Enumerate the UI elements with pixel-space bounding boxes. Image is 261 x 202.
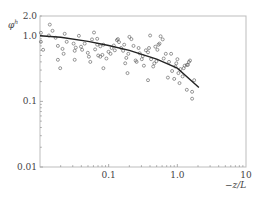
data-point <box>86 51 89 54</box>
data-point <box>62 52 65 55</box>
data-point <box>89 60 92 63</box>
data-point <box>125 56 128 59</box>
y-tick-label: 0.01 <box>17 162 37 172</box>
data-point <box>105 57 108 60</box>
data-point <box>161 38 164 41</box>
data-point <box>191 97 194 100</box>
data-point <box>137 47 140 50</box>
data-point <box>140 58 143 61</box>
data-point <box>96 37 99 40</box>
data-point <box>87 55 90 58</box>
data-point <box>130 38 133 41</box>
y-tick-label: 1.0 <box>23 31 38 41</box>
data-point <box>73 49 76 52</box>
data-point <box>181 75 184 78</box>
data-point <box>154 45 157 48</box>
scatter-points <box>39 23 195 100</box>
data-point <box>126 72 129 75</box>
x-tick-label: 10 <box>240 170 252 180</box>
y-axis-label: φh <box>8 18 18 30</box>
y-axis-tick-labels: 0.010.11.02.0 <box>17 11 37 172</box>
x-axis-tick-labels: 0.11.010 <box>102 170 252 180</box>
data-point <box>51 29 54 32</box>
data-point <box>94 48 97 51</box>
data-point <box>61 47 64 50</box>
data-point <box>185 88 188 91</box>
data-point <box>193 79 196 82</box>
data-point <box>77 34 80 37</box>
data-point <box>124 62 127 65</box>
data-point <box>162 57 165 60</box>
data-point <box>177 72 180 75</box>
data-point <box>74 46 77 49</box>
data-point <box>173 77 176 80</box>
data-point <box>73 58 76 61</box>
data-point <box>56 58 59 61</box>
data-point <box>118 41 121 44</box>
data-point <box>109 52 112 55</box>
data-point <box>148 47 151 50</box>
data-point <box>159 35 162 38</box>
data-point <box>113 49 116 52</box>
y-tick-label: 2.0 <box>23 11 38 21</box>
data-point <box>147 51 150 54</box>
data-point <box>59 67 62 70</box>
data-point <box>80 45 83 48</box>
data-point <box>81 48 84 51</box>
data-point <box>132 44 135 47</box>
data-point <box>156 48 159 51</box>
data-point <box>149 34 152 37</box>
x-tick-label: 0.1 <box>102 170 116 180</box>
data-point <box>91 38 94 41</box>
data-point <box>101 53 104 56</box>
data-point <box>171 70 174 73</box>
data-point <box>83 42 86 45</box>
data-point <box>170 52 173 55</box>
data-point <box>147 79 150 82</box>
data-point <box>123 43 126 46</box>
data-point <box>152 65 155 68</box>
data-point <box>56 44 59 47</box>
x-axis-label: −z/L <box>225 180 246 190</box>
data-point <box>127 52 130 55</box>
data-point <box>176 58 179 61</box>
data-point <box>63 32 66 35</box>
data-point <box>93 31 96 34</box>
data-point <box>48 23 51 26</box>
data-point <box>65 40 68 43</box>
data-point <box>72 42 75 45</box>
data-point <box>168 60 171 63</box>
data-point <box>191 90 194 93</box>
data-point <box>99 45 102 48</box>
data-point <box>178 82 181 85</box>
y-tick-label: 0.1 <box>23 96 37 106</box>
data-point <box>164 52 167 55</box>
data-point <box>42 48 45 51</box>
data-point <box>175 62 178 65</box>
data-point <box>102 67 105 70</box>
data-point <box>142 64 145 67</box>
x-tick-label: 1.0 <box>170 170 185 180</box>
data-point <box>166 76 169 79</box>
chart: 0.11.010 0.010.11.02.0 −z/L φh <box>0 0 261 202</box>
